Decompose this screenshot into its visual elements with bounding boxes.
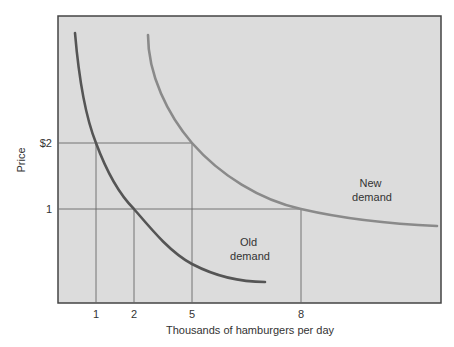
x-tick-5: 5 [189, 308, 195, 320]
x-tick-1: 1 [93, 308, 99, 320]
y-tick-1: 1 [46, 203, 52, 215]
x-tick-8: 8 [298, 308, 304, 320]
x-axis-title: Thousands of hamburgers per day [166, 324, 335, 336]
y-tick-2: $2 [40, 137, 52, 149]
demand-chart: Old demand New demand $2 1 1 2 5 8 Thous… [0, 0, 454, 347]
y-axis-title: Price [15, 147, 27, 172]
x-tick-2: 2 [131, 308, 137, 320]
